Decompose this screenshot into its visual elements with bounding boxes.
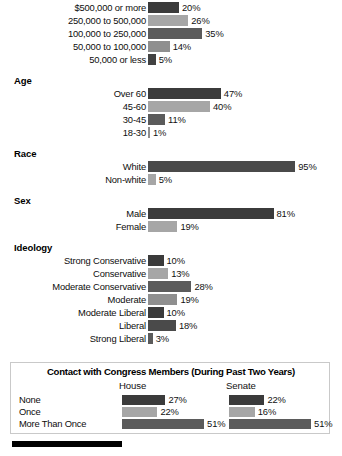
bar-value-label: 11% <box>168 114 186 125</box>
bar-category-label: Moderate Liberal <box>0 306 146 319</box>
contact-bar-senate <box>229 407 255 417</box>
bar-row: 50,000 to 100,00014% <box>0 40 342 53</box>
bar-value-label: 10% <box>167 255 185 266</box>
contact-value-label: 51% <box>207 418 225 429</box>
bar-value-label: 40% <box>213 101 231 112</box>
bar-track: 13% <box>148 268 342 279</box>
bar-category-label: Non-white <box>0 173 146 186</box>
bar-category-label: $500,000 or more <box>0 1 146 14</box>
bar-row: 30-4511% <box>0 113 342 126</box>
contact-bar-senate <box>229 419 311 429</box>
contact-bar-house <box>122 407 157 417</box>
bar-category-label: Male <box>0 207 146 220</box>
bar-track: 47% <box>148 88 342 99</box>
bar-row: Male81% <box>0 207 342 220</box>
bar-value-label: 3% <box>156 333 169 344</box>
bar-fill <box>148 28 202 39</box>
group-title-race: Race <box>0 148 342 160</box>
bar-fill <box>148 2 179 13</box>
chart-group-race: RaceWhite95%Non-white5% <box>0 148 342 186</box>
bar-category-label: 45-60 <box>0 100 146 113</box>
bar-fill <box>148 174 156 185</box>
contact-value-label: 16% <box>258 406 276 417</box>
contact-category-label: More Than Once <box>19 418 123 430</box>
bar-value-label: 10% <box>167 307 185 318</box>
bar-track: 19% <box>148 294 342 305</box>
bar-value-label: 35% <box>205 28 223 39</box>
bar-track: 14% <box>148 41 342 52</box>
column-header-senate: Senate <box>226 380 256 391</box>
contact-value-label: 51% <box>314 418 332 429</box>
bar-row: 45-6040% <box>0 100 342 113</box>
bar-fill <box>148 281 191 292</box>
bar-category-label: Strong Conservative <box>0 254 146 267</box>
bar-value-label: 20% <box>182 2 200 13</box>
bar-fill <box>148 101 210 112</box>
bar-value-label: 13% <box>171 268 189 279</box>
group-title-sex: Sex <box>0 195 342 207</box>
bar-category-label: 18-30 <box>0 126 146 139</box>
chart-group-sex: SexMale81%Female19% <box>0 195 342 233</box>
bar-category-label: Strong Liberal <box>0 332 146 345</box>
bar-fill <box>148 15 188 26</box>
contact-row: Once22%16% <box>11 406 331 418</box>
contact-bar-house <box>122 419 204 429</box>
bar-track: 28% <box>148 281 342 292</box>
bar-track: 5% <box>148 174 342 185</box>
bar-value-label: 19% <box>180 221 198 232</box>
group-title-age: Age <box>0 75 342 87</box>
chart-group-age: AgeOver 6047%45-6040%30-4511%18-301% <box>0 75 342 139</box>
contact-bar-house <box>122 395 165 405</box>
chart-group-ideology: IdeologyStrong Conservative10%Conservati… <box>0 242 342 345</box>
bar-fill <box>148 208 274 219</box>
bar-row: Moderate Liberal10% <box>0 306 342 319</box>
bar-fill <box>148 307 164 318</box>
bar-fill <box>148 268 168 279</box>
bar-track: 26% <box>148 15 342 26</box>
bar-track: 20% <box>148 2 342 13</box>
bar-value-label: 18% <box>179 320 197 331</box>
contact-category-label: None <box>19 394 123 406</box>
bar-fill <box>148 88 221 99</box>
bar-row: 18-301% <box>0 126 342 139</box>
bar-track: 40% <box>148 101 342 112</box>
bar-track: 19% <box>148 221 342 232</box>
bar-fill <box>148 320 176 331</box>
bar-fill <box>148 41 170 52</box>
footer-rule <box>12 441 122 447</box>
bar-value-label: 5% <box>159 54 172 65</box>
bar-row: Non-white5% <box>0 173 342 186</box>
bar-row: 100,000 to 250,00035% <box>0 27 342 40</box>
contact-bar-senate <box>229 395 264 405</box>
bar-fill <box>148 161 295 172</box>
column-header-house: House <box>119 380 146 391</box>
bar-category-label: Female <box>0 220 146 233</box>
bar-category-label: Liberal <box>0 319 146 332</box>
bar-fill <box>148 255 164 266</box>
contact-value-label: 22% <box>160 406 178 417</box>
bar-category-label: Moderate Conservative <box>0 280 146 293</box>
bar-value-label: 81% <box>277 208 295 219</box>
bar-category-label: 100,000 to 250,000 <box>0 27 146 40</box>
contact-value-label: 22% <box>267 394 285 405</box>
bar-track: 11% <box>148 114 342 125</box>
bar-fill <box>148 221 177 232</box>
chart-group-income: $500,000 or more20%250,000 to 500,00026%… <box>0 1 342 66</box>
bar-row: Female19% <box>0 220 342 233</box>
bar-track: 10% <box>148 307 342 318</box>
bar-row: 250,000 to 500,00026% <box>0 14 342 27</box>
bar-value-label: 26% <box>191 15 209 26</box>
bar-track: 35% <box>148 28 342 39</box>
bar-row: Liberal18% <box>0 319 342 332</box>
contact-row: More Than Once51%51% <box>11 418 331 430</box>
bar-row: Strong Liberal3% <box>0 332 342 345</box>
bar-row: Moderate19% <box>0 293 342 306</box>
bar-category-label: Conservative <box>0 267 146 280</box>
bar-track: 95% <box>148 161 342 172</box>
bar-category-label: Over 60 <box>0 87 146 100</box>
contact-category-label: Once <box>19 406 123 418</box>
bar-track: 5% <box>148 54 342 65</box>
contact-panel-title: Contact with Congress Members (During Pa… <box>11 366 331 377</box>
bar-track: 18% <box>148 320 342 331</box>
bar-value-label: 28% <box>194 281 212 292</box>
